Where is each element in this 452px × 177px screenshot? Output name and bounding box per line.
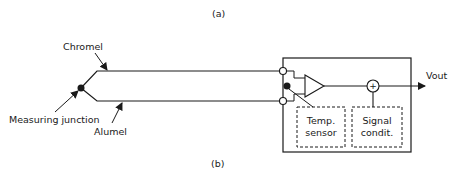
caption-b: (b) [211,159,224,169]
signal-conditioner-label: Signal condit. [352,115,402,139]
cold-junction-dot [284,83,291,90]
chromel-label: Chromel [63,42,103,52]
vout-label: Vout [426,71,447,81]
amplifier-triangle [305,75,324,97]
thermocouple-diagram [0,0,452,177]
measuring-junction-label: Measuring junction [9,115,100,125]
junction-pointer [55,91,78,112]
temp-sensor-label: Temp. sensor [297,115,345,139]
alumel-pointer [112,103,122,123]
measuring-junction-dot [78,85,85,92]
chromel-pointer [95,53,107,70]
alumel-label: Alumel [94,127,127,137]
terminal-bottom [280,98,287,105]
chromel-wire [81,71,283,88]
terminal-top [280,68,287,75]
alumel-wire [81,88,283,101]
plus-symbol: + [368,80,378,92]
